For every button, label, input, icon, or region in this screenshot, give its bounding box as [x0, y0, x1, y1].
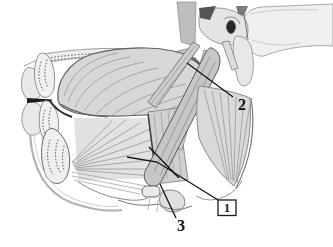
hyoid-bone	[142, 186, 160, 197]
hyoid-larynx	[118, 186, 192, 212]
label-3: 3	[177, 217, 185, 234]
label-2: 2	[238, 96, 246, 113]
label-1: 1	[224, 201, 230, 215]
mandible-ramus	[243, 4, 333, 56]
figure-canvas: 1 2 3	[0, 0, 333, 247]
infratemporal-region	[177, 2, 196, 46]
anatomy-illustration: 1 2 3	[0, 0, 333, 247]
external-acoustic-meatus	[227, 21, 236, 34]
